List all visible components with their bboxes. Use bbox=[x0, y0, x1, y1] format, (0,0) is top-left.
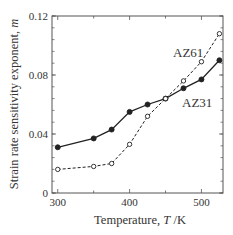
filled-circle-marker bbox=[181, 86, 186, 91]
filled-circle-marker bbox=[55, 145, 60, 150]
open-circle-marker bbox=[56, 167, 60, 171]
open-circle-marker bbox=[199, 60, 203, 64]
filled-circle-marker bbox=[199, 77, 204, 82]
filled-circle-marker bbox=[145, 102, 150, 107]
filled-circle-marker bbox=[91, 136, 96, 141]
y-tick-label: 0 bbox=[43, 187, 49, 199]
x-axis-title-suffix: /K bbox=[170, 213, 186, 227]
filled-circle-marker bbox=[217, 58, 222, 63]
open-circle-marker bbox=[127, 142, 131, 146]
y-tick-label: 0.04 bbox=[29, 128, 49, 140]
x-tick-label: 400 bbox=[121, 196, 138, 208]
open-circle-marker bbox=[217, 32, 221, 36]
series-label-az31: AZ31 bbox=[182, 95, 212, 110]
y-tick-label: 0.08 bbox=[29, 69, 49, 81]
y-axis-title-var: m bbox=[7, 19, 21, 28]
filled-circle-marker bbox=[109, 127, 114, 132]
open-circle-marker bbox=[145, 114, 149, 118]
filled-circle-marker bbox=[127, 109, 132, 114]
open-circle-marker bbox=[163, 96, 167, 100]
x-axis-title-prefix: Temperature, bbox=[94, 213, 163, 227]
y-axis-title-prefix: Strain rate sensitivity exponent, bbox=[7, 28, 21, 189]
y-tick-label: 0.12 bbox=[29, 10, 48, 22]
x-tick-label: 300 bbox=[49, 196, 66, 208]
series-label-az61: AZ61 bbox=[173, 45, 203, 60]
open-circle-marker bbox=[109, 161, 113, 165]
open-circle-marker bbox=[91, 164, 95, 168]
open-circle-marker bbox=[181, 79, 185, 83]
x-tick-label: 500 bbox=[193, 196, 210, 208]
y-axis-title: Strain rate sensitivity exponent, m bbox=[7, 19, 21, 189]
strain-rate-chart: 30040050000.040.080.12 AZ61 AZ31 Tempera… bbox=[0, 0, 233, 235]
x-axis-title: Temperature, T /K bbox=[94, 213, 186, 227]
